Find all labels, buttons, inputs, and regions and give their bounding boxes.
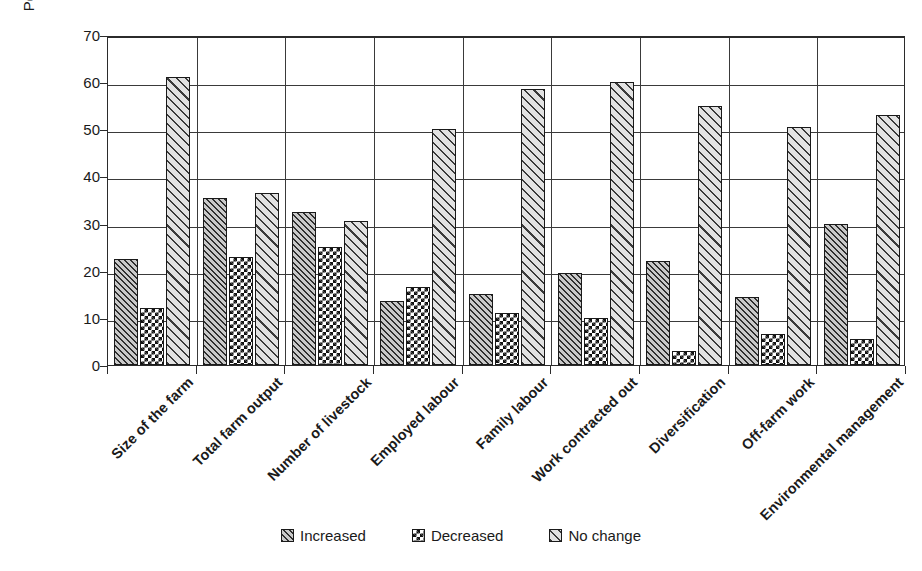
y-axis-title: Percentage of respondents (%) [18, 0, 40, 76]
gridline-category-separator [197, 38, 198, 365]
bar [646, 261, 670, 365]
chart-legend: IncreasedDecreasedNo change [0, 522, 922, 548]
gridline-horizontal [108, 85, 904, 86]
bar [432, 129, 456, 365]
y-axis-tick-mark [100, 272, 108, 273]
gridline-category-separator [729, 38, 730, 365]
y-axis-tick-mark [100, 83, 108, 84]
bar [735, 297, 759, 365]
bar [380, 301, 404, 365]
gridline-horizontal [108, 227, 904, 228]
bar [166, 77, 190, 365]
y-axis-tick-label: 0 [66, 358, 100, 373]
y-axis-tick-mark [100, 36, 108, 37]
legend-item-label: Decreased [431, 528, 504, 543]
legend-swatch-icon [412, 529, 425, 542]
bar [761, 334, 785, 365]
y-axis-tick-label: 30 [66, 217, 100, 232]
bar [850, 339, 874, 365]
bar [140, 308, 164, 365]
gridline-category-separator [285, 38, 286, 365]
y-axis-tick-label: 20 [66, 264, 100, 279]
x-axis-tick-mark [373, 366, 374, 374]
y-axis-tick-mark [100, 225, 108, 226]
plot-area [107, 36, 905, 366]
legend-swatch-icon [281, 529, 294, 542]
x-axis-tick-mark [196, 366, 197, 374]
x-axis-tick-mark [905, 366, 906, 374]
bar-chart: Percentage of respondents (%) 7060504030… [0, 0, 922, 571]
bar [521, 89, 545, 365]
legend-item[interactable]: Increased [281, 528, 366, 543]
legend-item-label: Increased [300, 528, 366, 543]
y-axis-tick-mark [100, 319, 108, 320]
gridline-category-separator [817, 38, 818, 365]
y-axis-tick-label: 70 [66, 28, 100, 43]
bar [255, 193, 279, 365]
x-axis-tick-mark [284, 366, 285, 374]
bar [584, 318, 608, 365]
bar [114, 259, 138, 365]
bar [229, 257, 253, 365]
bar [495, 313, 519, 365]
bar [318, 247, 342, 365]
legend-item[interactable]: Decreased [412, 528, 504, 543]
y-axis-tick-label: 10 [66, 311, 100, 326]
x-axis-tick-labels: Size of the farmTotal farm outputNumber … [0, 374, 922, 514]
bar [876, 115, 900, 365]
y-axis-tick-label: 50 [66, 122, 100, 137]
y-axis-tick-mark [100, 130, 108, 131]
bar [203, 198, 227, 365]
x-axis-tick-mark [550, 366, 551, 374]
bar [672, 351, 696, 365]
gridline-category-separator [551, 38, 552, 365]
y-axis-tick-mark [100, 177, 108, 178]
bar [787, 127, 811, 365]
legend-item-label: No change [568, 528, 641, 543]
bar [698, 106, 722, 365]
x-axis-tick-mark [639, 366, 640, 374]
gridline-horizontal [108, 132, 904, 133]
bar [824, 224, 848, 365]
x-axis-tick-mark [107, 366, 108, 374]
legend-swatch-icon [549, 529, 562, 542]
x-axis-tick-mark [728, 366, 729, 374]
bar [610, 82, 634, 365]
gridline-horizontal [108, 179, 904, 180]
y-axis-title-container: Percentage of respondents (%) [0, 24, 34, 370]
bar [469, 294, 493, 365]
gridline-category-separator [374, 38, 375, 365]
x-axis-tick-mark [816, 366, 817, 374]
gridline-horizontal [108, 274, 904, 275]
gridline-category-separator [463, 38, 464, 365]
bar [558, 273, 582, 365]
bar [406, 287, 430, 365]
gridline-category-separator [640, 38, 641, 365]
x-axis-tick-mark [462, 366, 463, 374]
y-axis-tick-label: 60 [66, 75, 100, 90]
bar [292, 212, 316, 365]
y-axis-tick-label: 40 [66, 169, 100, 184]
bar [344, 221, 368, 365]
legend-item[interactable]: No change [549, 528, 641, 543]
